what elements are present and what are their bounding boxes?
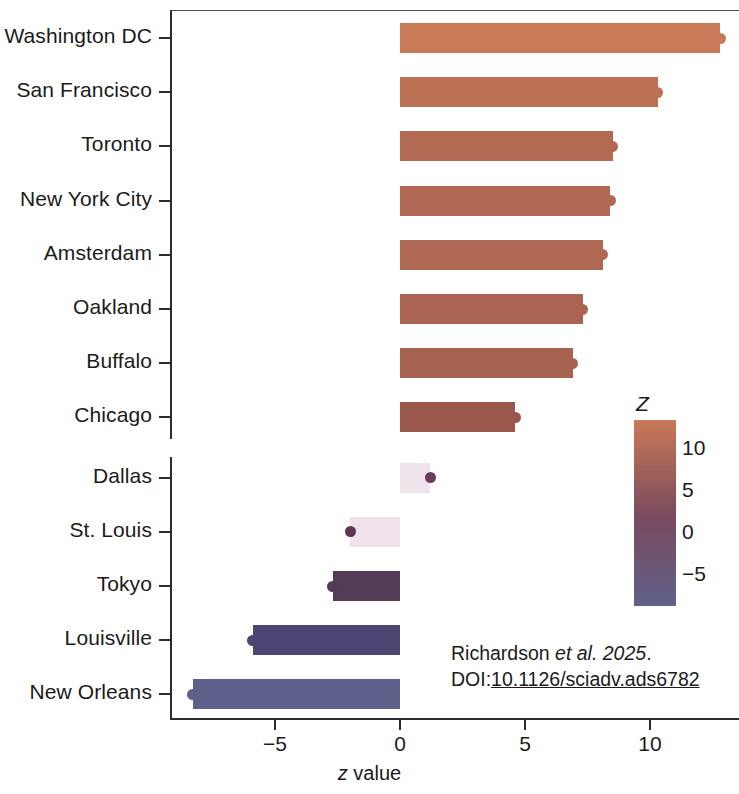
y-axis-label: Tokyo (0, 572, 152, 596)
bar-tip-marker (187, 689, 198, 700)
bar (350, 517, 400, 547)
bar (400, 402, 515, 432)
citation-annotation: Richardson et al. 2025. DOI:10.1126/scia… (451, 640, 700, 692)
x-axis-tick (274, 720, 276, 730)
x-axis-title-symbol: z (338, 762, 348, 784)
y-axis-label: Buffalo (0, 349, 152, 373)
bar-tip-marker (247, 635, 258, 646)
x-axis-tick-label: 5 (495, 732, 555, 756)
bar (193, 679, 401, 709)
doi-link[interactable]: 10.1126/sciadv.ads6782 (491, 668, 700, 690)
x-axis-tick (649, 720, 651, 730)
bar (400, 294, 583, 324)
bar-tip-marker (652, 87, 663, 98)
citation-line-1: Richardson et al. 2025. (451, 640, 700, 666)
bar (400, 186, 610, 216)
y-axis-tick (159, 254, 170, 256)
x-axis-title: z value (0, 762, 739, 785)
bar-tip-marker (425, 472, 436, 483)
x-axis-tick-label: −5 (245, 732, 305, 756)
doi-prefix: DOI: (451, 668, 491, 690)
x-axis-tick (399, 720, 401, 730)
y-axis-tick (159, 693, 170, 695)
y-axis-label: St. Louis (0, 518, 152, 542)
y-axis-label: New York City (0, 187, 152, 211)
bar-tip-marker (510, 412, 521, 423)
bar-tip-marker (567, 358, 578, 369)
bar (400, 131, 613, 161)
bar (400, 77, 658, 107)
y-axis-label: Amsterdam (0, 241, 152, 265)
bar (400, 23, 720, 53)
citation-line-2: DOI:10.1126/sciadv.ads6782 (451, 666, 700, 692)
bar (400, 348, 573, 378)
bar-tip-marker (715, 33, 726, 44)
y-axis-label: Toronto (0, 132, 152, 156)
axis-break (169, 439, 173, 457)
chart-root: Washington DCSan FranciscoTorontoNew Yor… (0, 0, 739, 794)
bar (253, 625, 401, 655)
bar-tip-marker (345, 526, 356, 537)
y-axis-tick (159, 477, 170, 479)
bar-tip-marker (607, 141, 618, 152)
y-axis-label: New Orleans (0, 680, 152, 704)
colorbar-tick-label: 0 (682, 520, 694, 544)
x-axis-tick-label: 10 (620, 732, 680, 756)
bar-tip-marker (577, 304, 588, 315)
y-axis-tick (159, 145, 170, 147)
y-axis-tick (159, 416, 170, 418)
bar-tip-marker (605, 195, 616, 206)
colorbar-tick-label: 5 (682, 478, 694, 502)
citation-author: Richardson (451, 642, 555, 664)
y-axis-tick (159, 37, 170, 39)
colorbar-title: Z (636, 392, 649, 416)
y-axis-tick (159, 362, 170, 364)
y-axis-label: Chicago (0, 403, 152, 427)
y-axis-tick (159, 531, 170, 533)
x-axis-tick-label: 0 (370, 732, 430, 756)
y-axis-tick (159, 585, 170, 587)
x-axis-title-text: value (348, 762, 401, 784)
citation-etal: et al. 2025 (555, 642, 646, 664)
bar (333, 571, 401, 601)
citation-period: . (646, 642, 651, 664)
y-axis-label: Oakland (0, 295, 152, 319)
y-axis-tick (159, 639, 170, 641)
bar (400, 240, 603, 270)
bar-tip-marker (327, 581, 338, 592)
y-axis-label: Louisville (0, 626, 152, 650)
y-axis-label: Washington DC (0, 24, 152, 48)
y-axis-label: Dallas (0, 464, 152, 488)
x-axis-tick (524, 720, 526, 730)
y-axis-tick (159, 308, 170, 310)
colorbar-gradient (634, 420, 676, 606)
y-axis-tick (159, 200, 170, 202)
y-axis-tick (159, 91, 170, 93)
colorbar-tick-label: 10 (682, 436, 705, 460)
y-axis-label: San Francisco (0, 78, 152, 102)
colorbar-tick-label: −5 (682, 562, 706, 586)
